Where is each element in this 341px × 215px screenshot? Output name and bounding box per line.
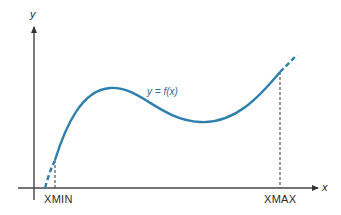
xmin-label: XMIN <box>44 193 73 205</box>
curve-extension-right <box>280 55 297 72</box>
y-axis-label: y <box>30 8 36 20</box>
plot-graphics <box>0 0 341 215</box>
xmax-label: XMAX <box>264 193 296 205</box>
x-axis-label: x <box>322 181 328 193</box>
curve-extension-left <box>45 160 55 188</box>
function-plot-diagram: y x y = f(x) XMIN XMAX <box>0 0 341 215</box>
function-label: y = f(x) <box>147 86 178 97</box>
